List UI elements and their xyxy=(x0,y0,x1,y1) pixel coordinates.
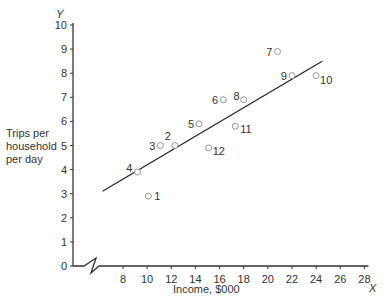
x-tick-label: 26 xyxy=(334,273,346,285)
point-marker-icon xyxy=(196,121,202,127)
point-label: 2 xyxy=(165,130,171,142)
point-label: 7 xyxy=(266,46,272,58)
point-marker-icon xyxy=(134,169,140,175)
y-tick-label: 5 xyxy=(61,140,67,152)
point-label: 6 xyxy=(212,94,218,106)
point-marker-icon xyxy=(241,97,247,103)
y-axis-letter: Y xyxy=(56,8,64,20)
point-label: 8 xyxy=(234,90,240,102)
y-tick-label: 4 xyxy=(61,164,67,176)
point-label: 5 xyxy=(188,118,194,130)
y-tick-label: 0 xyxy=(61,260,67,272)
y-tick-label: 9 xyxy=(61,43,67,55)
point-label: 11 xyxy=(240,123,251,135)
data-point: 8 xyxy=(234,90,247,103)
point-marker-icon xyxy=(232,123,238,129)
point-marker-icon xyxy=(206,145,212,151)
point-marker-icon xyxy=(313,73,319,79)
data-point: 1 xyxy=(145,190,160,202)
point-label: 9 xyxy=(281,70,287,82)
x-axis-letter: X xyxy=(368,282,377,294)
point-marker-icon xyxy=(157,143,163,149)
data-point: 3 xyxy=(149,140,163,152)
point-marker-icon xyxy=(172,143,178,149)
data-point: 12 xyxy=(206,145,225,157)
y-axis-label-line: Trips per xyxy=(6,127,57,140)
point-marker-icon xyxy=(274,49,280,55)
y-tick-label: 6 xyxy=(61,115,67,127)
point-marker-icon xyxy=(145,193,151,199)
point-marker-icon xyxy=(289,73,295,79)
y-axis-ticks: 012345678910 xyxy=(55,19,73,272)
y-tick-label: 3 xyxy=(61,188,67,200)
x-tick-label: 10 xyxy=(141,273,153,285)
y-axis-label-line: household xyxy=(6,140,57,153)
y-tick-label: 2 xyxy=(61,212,67,224)
data-point: 7 xyxy=(266,46,280,58)
x-axis-ticks: 810121416182022242628 xyxy=(120,266,371,285)
data-point: 11 xyxy=(232,123,251,135)
point-label: 3 xyxy=(149,140,155,152)
point-label: 10 xyxy=(320,74,332,86)
y-axis-label: Trips per household per day xyxy=(6,127,57,166)
point-marker-icon xyxy=(220,97,226,103)
data-point: 9 xyxy=(281,70,295,82)
scatter-chart: 012345678910 810121416182022242628 12345… xyxy=(0,0,390,304)
point-label: 4 xyxy=(126,162,132,174)
y-tick-label: 8 xyxy=(61,67,67,79)
y-axis-label-line: per day xyxy=(6,153,57,166)
y-tick-label: 1 xyxy=(61,236,67,248)
point-label: 12 xyxy=(213,145,225,157)
data-point: 10 xyxy=(313,73,332,86)
data-points: 123456789101112 xyxy=(126,46,332,203)
y-tick-label: 10 xyxy=(55,19,67,31)
data-point: 2 xyxy=(165,130,178,149)
x-axis-label: Income, $000 xyxy=(173,283,240,295)
x-tick-label: 8 xyxy=(120,273,126,285)
data-point: 6 xyxy=(212,94,226,106)
x-tick-label: 20 xyxy=(262,273,274,285)
x-tick-label: 22 xyxy=(286,273,298,285)
data-point: 5 xyxy=(188,118,202,130)
point-label: 1 xyxy=(154,190,160,202)
x-axis-line-with-break xyxy=(73,258,368,273)
x-tick-label: 24 xyxy=(310,273,322,285)
y-tick-label: 7 xyxy=(61,91,67,103)
